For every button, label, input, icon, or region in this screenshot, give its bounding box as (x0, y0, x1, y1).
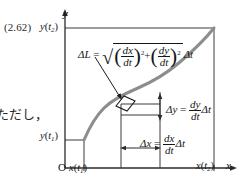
arc-length-lhs: ΔL (78, 48, 91, 60)
delta-y-arrowhead-down (158, 115, 163, 121)
tick-label-y-upper: y(t2) (40, 22, 58, 34)
arc-length-formula: ΔL = √(dxdt)2+(dydt)2Δt (78, 43, 193, 68)
tick-y-lower-paren-close: ) (55, 130, 59, 141)
y-axis-label: y (63, 8, 68, 19)
tick-label-x-right: x(t2) (196, 161, 214, 173)
arc-length-radicand: (dxdt)2+(dydt)2 (113, 43, 182, 68)
origin-label: O (58, 162, 66, 173)
tick-x-right-paren-close: ) (211, 160, 215, 171)
delta-y-equals: = (180, 103, 186, 115)
delta-x-numerator: dx (163, 133, 175, 145)
arc-length-trailing-dt: Δt (184, 48, 194, 60)
term2-exponent: 2 (177, 49, 180, 56)
term1-paren-close: ) (134, 50, 141, 63)
term2-paren-close: ) (170, 50, 177, 63)
delta-x-trailing-dt: Δt (175, 137, 185, 149)
term1-fraction: dxdt (121, 45, 133, 68)
figure-page: (2.62) ただし， (0, 0, 241, 181)
term1-denominator: dt (121, 57, 133, 68)
tick-label-y-lower: y(t1) (40, 131, 58, 143)
delta-x-fraction: dxdt (163, 133, 175, 156)
delta-x-equals: = (154, 137, 160, 149)
delta-y-trailing-dt: Δt (201, 103, 211, 115)
term2-denominator: dt (158, 57, 170, 68)
delta-y-denominator: dt (189, 111, 201, 122)
delta-y-arrowhead-up (158, 93, 163, 99)
x-axis-arrowhead (230, 165, 237, 171)
delta-y-numerator: dy (189, 99, 201, 111)
delta-y-lhs: Δy (166, 103, 177, 115)
delta-y-formula: Δy = dydtΔt (166, 99, 211, 122)
square-root-icon: √ (102, 47, 113, 67)
delta-x-lhs: Δx (140, 137, 151, 149)
term1-numerator: dx (121, 45, 133, 57)
term2-fraction: dydt (158, 45, 170, 68)
arc-length-radical-group: √(dxdt)2+(dydt)2 (102, 43, 182, 68)
term2-numerator: dy (158, 45, 170, 57)
parametric-curve-figure (0, 0, 241, 181)
arc-length-equals: = (93, 48, 99, 60)
term1-paren-open: ( (114, 50, 121, 63)
tick-label-x-left: x(t1) (69, 163, 87, 175)
delta-x-formula: Δx = dxdtΔt (140, 133, 185, 156)
delta-x-denominator: dt (163, 145, 175, 156)
tick-y-upper-paren-close: ) (55, 21, 59, 32)
tick-x-left-paren-close: ) (84, 162, 88, 173)
x-axis-label: x (226, 160, 231, 171)
delta-y-fraction: dydt (189, 99, 201, 122)
term2-paren-open: ( (151, 50, 158, 63)
